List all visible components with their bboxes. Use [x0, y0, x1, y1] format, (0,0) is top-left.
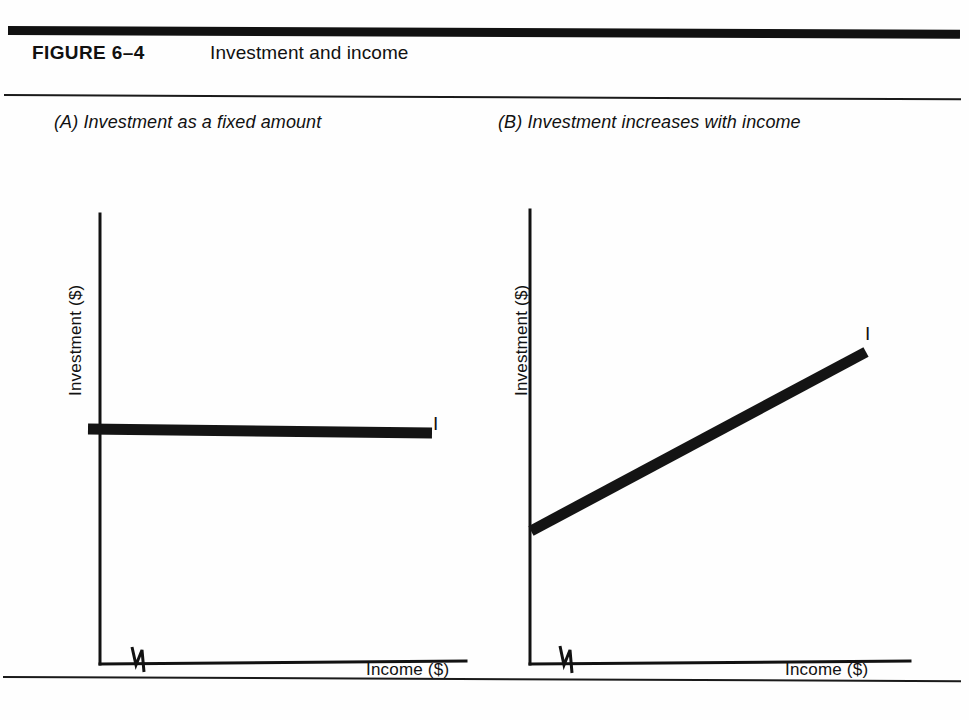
figure-title: Investment and income — [210, 42, 409, 64]
panel-b-investment-line — [531, 352, 866, 531]
panel-a-y-axis-label: Investment ($) — [66, 285, 86, 396]
panel-b-plot: Investment ($) I Income ($) — [490, 152, 960, 672]
panel-a-title: (A) Investment as a fixed amount — [54, 112, 321, 133]
panel-a-investment-line — [88, 429, 432, 433]
figure-header: FIGURE 6–4 Investment and income — [0, 42, 969, 72]
panel-a-axis-break-icon — [132, 647, 144, 672]
panel-b-x-axis-label: Income ($) — [785, 660, 868, 680]
figure-number: FIGURE 6–4 — [32, 42, 145, 64]
panel-a-axes-and-curve — [36, 152, 496, 672]
panel-b-title: (B) Investment increases with income — [498, 112, 801, 133]
panel-b-axis-break-icon — [560, 646, 572, 673]
panel-a-curve-label: I — [433, 414, 438, 433]
figure-page: FIGURE 6–4 Investment and income (A) Inv… — [0, 0, 969, 720]
top-thick-rule — [8, 26, 960, 39]
panel-a-plot: Investment ($) I Income ($) — [36, 152, 496, 672]
panel-b-axes-and-curve — [490, 152, 960, 672]
panel-a: (A) Investment as a fixed amount Investm… — [36, 112, 496, 672]
panel-b-y-axis-label: Investment ($) — [512, 285, 532, 396]
panel-b-curve-label: I — [865, 324, 870, 343]
header-divider-rule — [4, 94, 961, 100]
panel-b: (B) Investment increases with income Inv… — [490, 112, 960, 672]
